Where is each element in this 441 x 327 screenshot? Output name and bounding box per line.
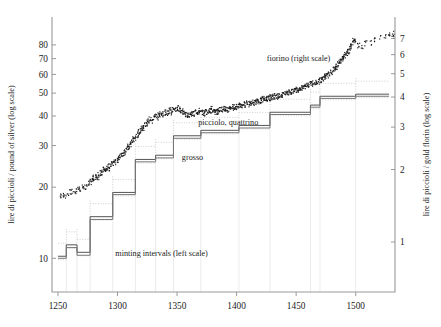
fiorino-data-point [251, 103, 252, 104]
fiorino-data-point [169, 108, 170, 109]
fiorino-data-point [157, 118, 158, 119]
fiorino-data-point [256, 104, 257, 105]
fiorino-data-point [126, 149, 127, 150]
fiorino-data-point [228, 111, 229, 112]
fiorino-data-point [260, 103, 261, 104]
fiorino-data-point [211, 108, 212, 109]
fiorino-data-point [73, 191, 74, 192]
fiorino-data-point [100, 175, 101, 176]
fiorino-data-point [208, 113, 209, 114]
fiorino-data-point [310, 83, 311, 84]
fiorino-data-point [107, 164, 108, 165]
fiorino-data-point [219, 111, 220, 112]
fiorino-data-point [75, 193, 76, 194]
fiorino-scatter-layer [60, 31, 395, 199]
fiorino-data-point [393, 36, 394, 37]
fiorino-data-point [199, 112, 200, 113]
fiorino-data-point [158, 119, 159, 120]
fiorino-data-point [155, 115, 156, 116]
fiorino-data-point [371, 40, 372, 41]
fiorino-data-point [255, 100, 256, 101]
fiorino-data-point [312, 86, 313, 87]
fiorino-data-point [156, 114, 157, 115]
fiorino-data-point [251, 104, 252, 105]
fiorino-data-point [147, 121, 148, 122]
fiorino-data-point [78, 189, 79, 190]
fiorino-data-point [302, 89, 303, 90]
fiorino-data-point [233, 108, 234, 109]
fiorino-data-point [284, 91, 285, 92]
fiorino-data-point [180, 112, 181, 113]
fiorino-data-point [137, 136, 138, 137]
fiorino-data-point [361, 48, 362, 49]
fiorino-data-point [270, 96, 271, 97]
fiorino-data-point [230, 107, 231, 108]
fiorino-data-point [278, 93, 279, 94]
fiorino-data-point [252, 100, 253, 101]
minting-label: minting intervals (left scale) [115, 249, 208, 258]
fiorino-data-point [139, 133, 140, 134]
fiorino-data-point [347, 49, 348, 50]
fiorino-data-point [190, 114, 191, 115]
fiorino-data-point [319, 84, 320, 85]
fiorino-data-point [152, 119, 153, 120]
fiorino-data-point [258, 101, 259, 102]
fiorino-data-point [213, 109, 214, 110]
fiorino-data-point [282, 95, 283, 96]
fiorino-data-point [177, 109, 178, 110]
fiorino-data-point [200, 111, 201, 112]
fiorino-data-point [348, 52, 349, 53]
fiorino-data-point [327, 73, 328, 74]
fiorino-data-point [79, 188, 80, 189]
fiorino-data-point [227, 110, 228, 111]
fiorino-data-point [296, 92, 297, 93]
fiorino-data-point [72, 193, 73, 194]
fiorino-data-point [119, 159, 120, 160]
fiorino-data-point [287, 91, 288, 92]
picciolo-label: picciolo, quattrino [198, 118, 258, 127]
fiorino-data-point [278, 97, 279, 98]
left-axis-tick-label: 30 [39, 141, 49, 151]
fiorino-data-point [219, 107, 220, 108]
fiorino-data-point [346, 55, 347, 56]
fiorino-data-point [153, 116, 154, 117]
fiorino-data-point [211, 106, 212, 107]
right-axis-tick-label: 7 [400, 34, 405, 44]
fiorino-data-point [159, 116, 160, 117]
fiorino-data-point [379, 38, 380, 39]
fiorino-data-point [119, 155, 120, 156]
bottom-axis-tick-label: 1400 [227, 301, 246, 311]
fiorino-data-point [298, 90, 299, 91]
fiorino-data-point [65, 198, 66, 199]
fiorino-data-point [93, 175, 94, 176]
fiorino-data-point [260, 102, 261, 103]
fiorino-data-point [339, 62, 340, 63]
fiorino-data-point [143, 127, 144, 128]
fiorino-data-point [312, 80, 313, 81]
fiorino-data-point [343, 58, 344, 59]
fiorino-data-point [244, 101, 245, 102]
fiorino-data-point [123, 155, 124, 156]
fiorino-data-point [312, 84, 313, 85]
fiorino-data-point [291, 89, 292, 90]
fiorino-data-point [201, 110, 202, 111]
fiorino-data-point [287, 94, 288, 95]
fiorino-data-point [113, 161, 114, 162]
fiorino-data-point [245, 105, 246, 106]
fiorino-data-point [143, 125, 144, 126]
fiorino-data-point [107, 169, 108, 170]
fiorino-data-point [136, 134, 137, 135]
fiorino-data-point [215, 114, 216, 115]
fiorino-data-point [236, 109, 237, 110]
fiorino-data-point [256, 100, 257, 101]
fiorino-data-point [132, 136, 133, 137]
fiorino-data-point [138, 129, 139, 130]
fiorino-data-point [227, 111, 228, 112]
fiorino-data-point [101, 170, 102, 171]
fiorino-data-point [352, 44, 353, 45]
fiorino-data-point [101, 172, 102, 173]
left-axis-tick-label: 10 [39, 254, 49, 264]
fiorino-data-point [118, 162, 119, 163]
fiorino-data-point [258, 102, 259, 103]
fiorino-data-point [193, 111, 194, 112]
